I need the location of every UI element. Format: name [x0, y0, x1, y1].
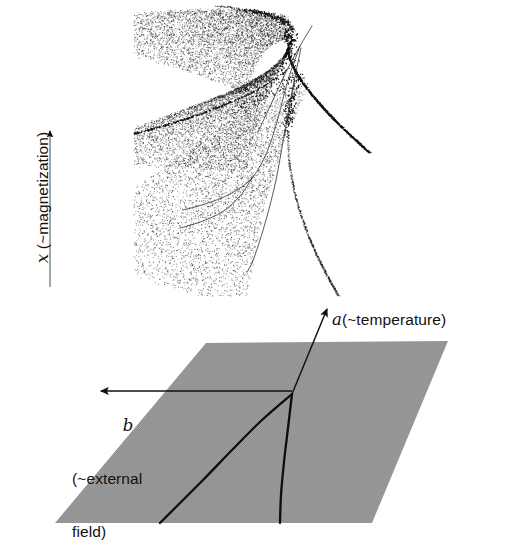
b-axis-text-line2: field)	[72, 523, 178, 540]
b-axis-symbol: b	[78, 418, 178, 435]
lower-fold-line	[183, 46, 300, 210]
b-axis-label: b (~external field)	[72, 383, 178, 552]
b-axis-text-line1: (~external	[72, 470, 178, 487]
a-axis-text: (~temperature)	[342, 311, 446, 328]
x-axis-text: (~magnetization)	[34, 132, 51, 254]
a-axis-label: a(~temperature)	[332, 311, 446, 329]
x-axis-label: x (~magnetization)	[33, 103, 52, 293]
equilibrium-surface-point-cloud	[134, 5, 372, 296]
x-axis-symbol: x	[32, 254, 52, 264]
fold-tail-line	[180, 178, 252, 228]
cusp-catastrophe-figure: x (~magnetization) a(~temperature) b (~e…	[0, 0, 513, 552]
a-axis-symbol: a	[332, 310, 342, 329]
